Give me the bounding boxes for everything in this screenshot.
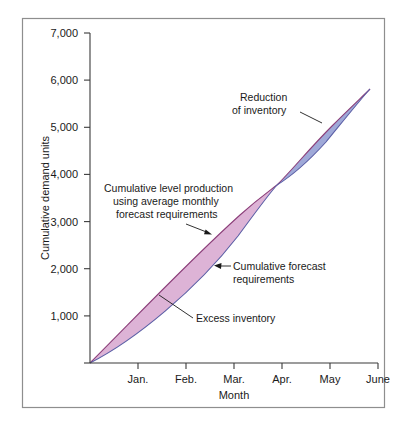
y-tick-label-2000: 2,000 (50, 263, 78, 275)
annotation-level-production-line-2: using average monthly (113, 195, 219, 207)
annotation-level-production-line-1: Cumulative level production (104, 182, 233, 194)
y-tick-label-5000: 5,000 (50, 121, 78, 133)
x-tick-label-may: May (320, 373, 341, 385)
x-tick-label-apr: Apr. (272, 373, 292, 385)
annotation-excess-inventory-label: Excess inventory (196, 312, 276, 324)
cumulative-demand-chart: 7,000 6,000 5,000 4,000 3,000 2,000 1,00… (0, 0, 406, 426)
chart-figure: 7,000 6,000 5,000 4,000 3,000 2,000 1,00… (0, 0, 406, 426)
y-tick-label-3000: 3,000 (50, 216, 78, 228)
x-tick-label-jan: Jan. (128, 373, 149, 385)
annotation-reduction-of-inventory-line-2: of inventory (232, 104, 287, 116)
x-tick-label-feb: Feb. (175, 373, 197, 385)
y-axis-title: Cumulative demand units (39, 135, 51, 260)
annotation-forecast-requirements-line-1: Cumulative forecast (233, 260, 326, 272)
annotation-reduction-of-inventory-line-1: Reduction (240, 91, 287, 103)
x-tick-label-mar: Mar. (223, 373, 244, 385)
y-tick-label-6000: 6,000 (50, 74, 78, 86)
annotation-forecast-requirements-line-2: requirements (233, 273, 294, 285)
x-tick-label-june: June (366, 373, 390, 385)
annotation-level-production-line-3: forecast requirements (116, 208, 218, 220)
x-axis-title: Month (219, 389, 250, 401)
y-tick-label-4000: 4,000 (50, 168, 78, 180)
y-tick-label-1000: 1,000 (50, 310, 78, 322)
y-tick-label-7000: 7,000 (50, 27, 78, 39)
